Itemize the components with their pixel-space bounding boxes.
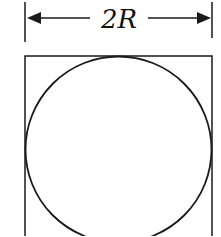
right-arrowhead-icon	[197, 12, 211, 24]
left-arrowhead-icon	[27, 12, 41, 24]
inscribed-circle	[26, 57, 212, 237]
inscribed-circle-diagram: 2R	[0, 0, 221, 236]
dimension-label: 2R	[100, 4, 137, 34]
